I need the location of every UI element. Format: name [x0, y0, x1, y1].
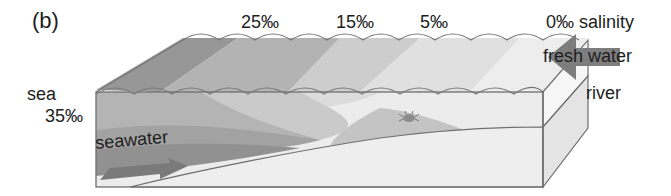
panel-label: (b) [32, 10, 59, 32]
salinity-label-25: 25‰ [241, 13, 279, 31]
surface-salinity-bands [96, 38, 588, 92]
fresh-water-label: fresh water [540, 47, 635, 65]
river-label: river [586, 84, 621, 102]
sea-salinity-label: 35‰ [45, 107, 83, 125]
salinity-label-15: 15‰ [336, 13, 374, 31]
sea-label: sea [27, 85, 56, 103]
salinity-label-5: 5‰ [420, 13, 448, 31]
salinity-label-0: 0‰ salinity [546, 13, 634, 31]
